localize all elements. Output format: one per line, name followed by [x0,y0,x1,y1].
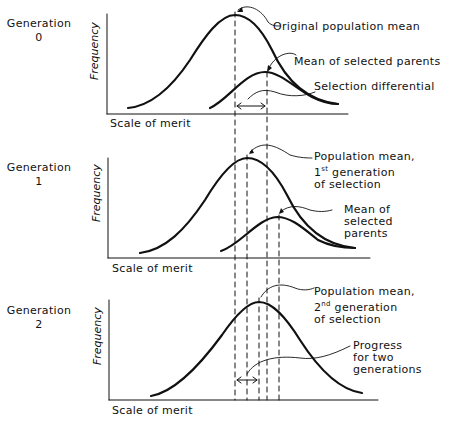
gen1-selected-mean-label: Mean of selected parents [344,204,393,240]
gen2-mean-line3: of selection [314,314,415,326]
gen0-label-text: Generation [4,17,74,31]
gen1-number: 1 [4,175,74,189]
gen1-mean-line1: Population mean, [314,151,415,163]
gen1-y-axis-label: Frequency [90,164,103,222]
gen1-selected-curve [221,217,355,251]
gen2-mean-sup: nd [321,300,330,308]
gen0-number: 0 [4,31,74,45]
gen2-mean-rest: generation [331,301,398,314]
gen2-population-mean-label: Population mean, 2nd generation of selec… [314,286,415,326]
gen1-mean-line3: of selection [314,179,415,191]
gen1-x-axis-label: Scale of merit [112,262,193,275]
gen2-progress-label: Progress for two generations [353,340,422,376]
gen2-y-axis-label: Frequency [91,307,104,365]
gen2-progress-line3: generations [353,364,422,376]
gen2-mean-line2: 2nd generation [314,298,415,314]
gen1-mean-rest: generation [328,166,395,179]
gen1-label-text: Generation [4,161,74,175]
gen2-label: Generation 2 [4,304,74,332]
gen1-selected-line3: parents [344,228,393,240]
leader-arrowheads [237,7,284,214]
gen2-mean-line1: Population mean, [314,286,415,298]
gen1-mean-line2: 1st generation [314,163,415,179]
gen2-number: 2 [4,318,74,332]
gen0-selection-differential-label: Selection differential [314,80,435,93]
gen1-label: Generation 1 [4,161,74,189]
gen0-label: Generation 0 [4,17,74,45]
gen0-x-axis-label: Scale of merit [110,117,191,130]
gen1-population-mean-label: Population mean, 1st generation of selec… [314,151,415,191]
gen2-label-text: Generation [4,304,74,318]
gen0-original-mean-label: Original population mean [273,20,420,33]
gen0-y-axis-label: Frequency [88,22,101,80]
gen0-selected-mean-label: Mean of selected parents [294,55,440,68]
mean-dashed-lines [235,12,279,400]
selection-differential-arrow [237,103,265,109]
gen2-x-axis-label: Scale of merit [112,404,193,417]
